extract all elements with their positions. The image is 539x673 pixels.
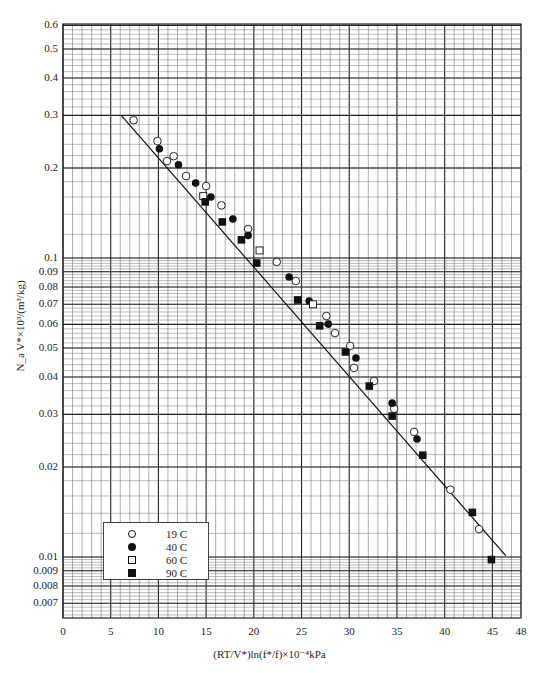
- legend-label: 60 C: [166, 554, 187, 566]
- legend-item-60c: 60 C: [104, 554, 208, 567]
- marker-19c: [154, 137, 162, 145]
- y-tick-label: 0.4: [0, 71, 58, 83]
- x-tick-label: 40: [430, 625, 460, 637]
- marker-90c: [419, 451, 427, 459]
- legend-label: 40 C: [166, 541, 187, 553]
- marker-90c: [238, 236, 246, 244]
- marker-40c: [229, 215, 237, 223]
- y-tick-label: 0.2: [0, 161, 58, 173]
- marker-40c: [285, 273, 293, 281]
- marker-19c: [475, 525, 483, 533]
- marker-19c: [218, 202, 226, 210]
- marker-90c: [253, 259, 261, 267]
- marker-40c: [388, 399, 396, 407]
- marker-19c: [331, 329, 339, 337]
- y-tick-label: 0.009: [0, 564, 58, 576]
- marker-90c: [342, 348, 350, 356]
- y-tick-label: 0.07: [0, 297, 58, 309]
- marker-90c: [316, 322, 324, 330]
- marker-19c: [323, 312, 331, 320]
- marker-40c: [244, 232, 252, 240]
- marker-40c: [352, 354, 360, 362]
- marker-19c: [182, 172, 190, 180]
- legend-item-19c: 19 C: [104, 528, 208, 541]
- y-tick-label: 0.04: [0, 370, 58, 382]
- marker-90c: [219, 218, 227, 226]
- marker-19c: [163, 157, 171, 165]
- marker-90c: [201, 198, 209, 206]
- marker-90c: [469, 509, 477, 517]
- chart-plot-area: [0, 0, 539, 673]
- marker-40c: [192, 179, 200, 187]
- filled-square-icon: [128, 569, 136, 577]
- open-circle-icon: [128, 530, 136, 538]
- marker-19c: [410, 428, 418, 436]
- y-tick-label: 0.01: [0, 550, 58, 562]
- legend-label: 19 C: [166, 528, 187, 540]
- y-tick-label: 0.6: [0, 18, 58, 30]
- y-tick-label: 0.02: [0, 460, 58, 472]
- marker-40c: [413, 435, 421, 443]
- marker-60c: [309, 301, 316, 308]
- x-tick-label: 20: [239, 625, 269, 637]
- y-tick-label: 0.05: [0, 341, 58, 353]
- x-tick-label: 5: [96, 625, 126, 637]
- marker-19c: [170, 152, 178, 160]
- marker-19c: [273, 258, 281, 266]
- marker-60c: [256, 247, 263, 254]
- y-tick-label: 0.5: [0, 42, 58, 54]
- y-tick-label: 0.1: [0, 251, 58, 263]
- data-points: [130, 116, 495, 563]
- marker-40c: [324, 320, 332, 328]
- marker-19c: [130, 116, 138, 124]
- x-tick-label: 10: [143, 625, 173, 637]
- marker-19c: [350, 364, 358, 372]
- x-axis-label: (RT/V*)ln(f*/f)×10⁻⁴kPa: [0, 648, 539, 661]
- y-tick-label: 0.09: [0, 265, 58, 277]
- legend-label: 90 C: [166, 567, 187, 579]
- marker-90c: [388, 412, 396, 420]
- marker-90c: [488, 556, 496, 564]
- legend: 19 C 40 C 60 C 90 C: [103, 522, 209, 580]
- marker-19c: [447, 486, 455, 494]
- open-square-icon: [128, 556, 136, 564]
- marker-19c: [292, 277, 300, 285]
- y-tick-label: 0.08: [0, 280, 58, 292]
- x-tick-label: 48: [506, 625, 536, 637]
- marker-40c: [156, 145, 164, 153]
- y-tick-label: 0.3: [0, 108, 58, 120]
- x-tick-label: 0: [48, 625, 78, 637]
- y-tick-label: 0.06: [0, 317, 58, 329]
- x-tick-label: 30: [334, 625, 364, 637]
- legend-item-90c: 90 C: [104, 567, 208, 580]
- x-tick-label: 35: [382, 625, 412, 637]
- filled-circle-icon: [128, 543, 136, 551]
- marker-19c: [202, 182, 210, 190]
- marker-90c: [294, 296, 302, 304]
- y-tick-label: 0.008: [0, 579, 58, 591]
- y-tick-label: 0.03: [0, 407, 58, 419]
- x-tick-label: 15: [191, 625, 221, 637]
- marker-40c: [175, 161, 183, 169]
- y-tick-label: 0.007: [0, 596, 58, 608]
- y-axis-label: N_a V*×10³/(m³/kg): [14, 246, 26, 406]
- x-tick-label: 25: [287, 625, 317, 637]
- x-tick-label: 45: [477, 625, 507, 637]
- marker-90c: [365, 382, 373, 390]
- legend-item-40c: 40 C: [104, 541, 208, 554]
